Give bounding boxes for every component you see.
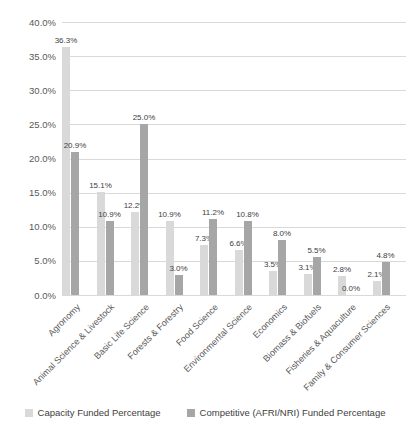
y-axis-tick-label: 35.0% [0,51,56,62]
y-axis-tick-label: 30.0% [0,85,56,96]
bar-capacity [200,245,208,295]
gridline [62,90,406,91]
bar-competitive [175,275,183,295]
y-axis-tick-label: 25.0% [0,119,56,130]
gridline [62,22,406,23]
data-label: 10.9% [92,210,128,220]
bar-competitive [71,152,79,295]
bar-competitive [313,257,321,295]
y-axis-tick-label: 10.0% [0,221,56,232]
gridline [62,56,406,57]
bar-capacity [304,274,312,295]
gridline [62,227,406,228]
gridline [62,295,406,296]
bar-capacity [373,281,381,295]
data-label: 15.1% [83,181,119,191]
bar-capacity [269,271,277,295]
data-label: 3.0% [161,264,197,274]
data-label: 2.8% [324,265,360,275]
data-label: 25.0% [126,113,162,123]
data-label: 8.0% [264,229,300,239]
data-label: 0.0% [333,284,369,294]
bar-capacity [97,192,105,295]
y-axis-tick-label: 5.0% [0,255,56,266]
data-label: 10.8% [230,210,266,220]
data-label: 10.9% [152,210,188,220]
grouped-bar-chart: Capacity Funded Percentage Competitive (… [0,0,410,441]
bar-competitive [106,221,114,295]
y-axis-tick-label: 20.0% [0,153,56,164]
bar-competitive [244,221,252,295]
data-label: 20.9% [57,141,93,151]
data-label: 36.3% [48,36,84,46]
bar-capacity [62,47,70,295]
y-axis-tick-label: 0.0% [0,290,56,301]
bar-capacity [166,221,174,295]
bar-competitive [278,240,286,295]
data-label: 4.8% [368,251,404,261]
gridline [62,124,406,125]
gridline [62,193,406,194]
bar-capacity [235,250,243,295]
data-label: 11.2% [195,208,231,218]
y-axis-tick-label: 40.0% [0,17,56,28]
gridline [62,159,406,160]
data-label: 5.5% [299,246,335,256]
bar-competitive [140,124,148,295]
y-axis-tick-label: 15.0% [0,187,56,198]
bar-capacity [131,212,139,295]
bar-competitive [209,219,217,295]
bar-competitive [382,262,390,295]
